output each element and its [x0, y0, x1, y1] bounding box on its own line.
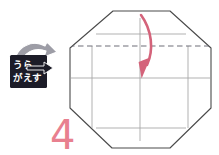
origami-step-diagram: うら がえす 4 — [0, 0, 219, 155]
octagon-outline — [70, 11, 211, 148]
step-number: 4 — [50, 112, 75, 155]
turn-over-badge: うら がえす — [10, 42, 57, 88]
turn-over-badge-label-line2: がえす — [13, 72, 42, 83]
diagram-canvas: うら がえす 4 — [0, 0, 219, 155]
